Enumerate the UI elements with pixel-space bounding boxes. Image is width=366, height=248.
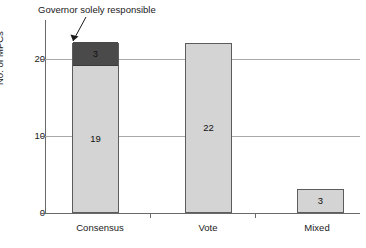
chart-figure: Governor solely responsible 20 10 0 No. … — [0, 0, 366, 248]
x-category-label-mixed: Mixed — [272, 222, 362, 233]
bar-mixed[interactable]: 3 — [297, 189, 344, 213]
bar-value-label: 19 — [90, 134, 101, 144]
x-tick-mark-2 — [255, 213, 256, 218]
bar-value-label: 3 — [318, 196, 323, 206]
bar-segment-consensus-governor[interactable]: 3 — [73, 42, 118, 66]
y-axis-title: No. of MPCs — [0, 31, 5, 85]
y-axis-ticks: 20 10 0 — [0, 0, 45, 248]
bar-segment-consensus-other[interactable]: 19 — [73, 66, 118, 212]
annotation-governor-solely-responsible: Governor solely responsible — [38, 4, 156, 15]
bar-value-label: 3 — [93, 49, 98, 59]
x-category-label-consensus: Consensus — [55, 222, 145, 233]
plot-area: 3 19 22 3 — [45, 20, 360, 213]
bar-consensus[interactable]: 3 19 — [72, 43, 119, 213]
bar-segment-mixed-other[interactable]: 3 — [298, 190, 343, 212]
x-category-label-vote: Vote — [163, 222, 253, 233]
bar-vote[interactable]: 22 — [185, 43, 232, 213]
x-axis-line — [45, 213, 360, 214]
x-tick-mark-1 — [150, 213, 151, 218]
bar-segment-vote-other[interactable]: 22 — [186, 44, 231, 212]
bar-value-label: 22 — [203, 123, 214, 133]
